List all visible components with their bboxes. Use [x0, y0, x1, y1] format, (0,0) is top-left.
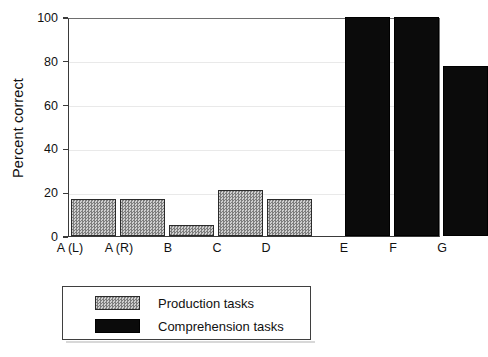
legend-label-comprehension: Comprehension tasks: [158, 319, 284, 334]
chart-legend: Production tasks Comprehension tasks: [62, 286, 311, 340]
y-tick-label-80: 80: [18, 55, 58, 69]
bar-g: [443, 66, 488, 236]
plot-inner: [69, 19, 439, 236]
bar-d: [267, 199, 312, 236]
x-tick-label-e: E: [320, 241, 368, 255]
x-tick-label-g: G: [418, 241, 466, 255]
y-tick-label-40: 40: [18, 142, 58, 156]
y-axis-title: Percent correct: [8, 18, 28, 237]
bar-b: [169, 225, 214, 236]
legend-swatch-production: [95, 296, 140, 310]
y-tick-label-100: 100: [18, 11, 58, 25]
y-axis-title-text: Percent correct: [10, 78, 26, 178]
x-tick-label-a-l: A (L): [46, 241, 94, 255]
legend-label-production: Production tasks: [158, 296, 254, 311]
x-tick-label-c: C: [193, 241, 241, 255]
y-tick-label-60: 60: [18, 99, 58, 113]
plot-area: [68, 18, 440, 237]
bar-f: [394, 17, 439, 236]
bar-a-r: [120, 199, 165, 236]
x-tick-label-f: F: [369, 241, 417, 255]
x-tick-label-a-r: A (R): [95, 241, 143, 255]
legend-swatch-comprehension: [95, 319, 140, 333]
y-tick-label-20: 20: [18, 186, 58, 200]
bar-a-l: [71, 199, 116, 236]
legend-item-production: Production tasks: [63, 292, 310, 314]
bar-c: [218, 190, 263, 236]
legend-item-comprehension: Comprehension tasks: [63, 315, 310, 337]
x-tick-label-b: B: [144, 241, 192, 255]
x-tick-label-d: D: [242, 241, 290, 255]
bar-e: [345, 17, 390, 236]
